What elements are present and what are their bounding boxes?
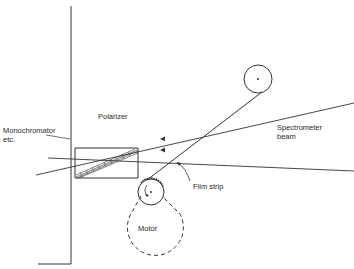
label-motor: Motor	[138, 224, 157, 233]
lower-reel-hub	[150, 191, 152, 193]
beam-arrow-upper	[160, 137, 165, 142]
label-polarizer: Polarizer	[98, 112, 128, 121]
label-monochromator: Monochromator etc.	[3, 126, 56, 144]
beam-arrow-lower	[160, 148, 165, 153]
label-film-strip: Film strip	[193, 182, 223, 191]
polarizer-apparatus-diagram: Monochromator etc. Polarizer Spectromete…	[0, 0, 354, 269]
label-spectrometer-beam: Spectrometer beam	[277, 123, 322, 141]
upper-reel-hub	[257, 78, 259, 80]
